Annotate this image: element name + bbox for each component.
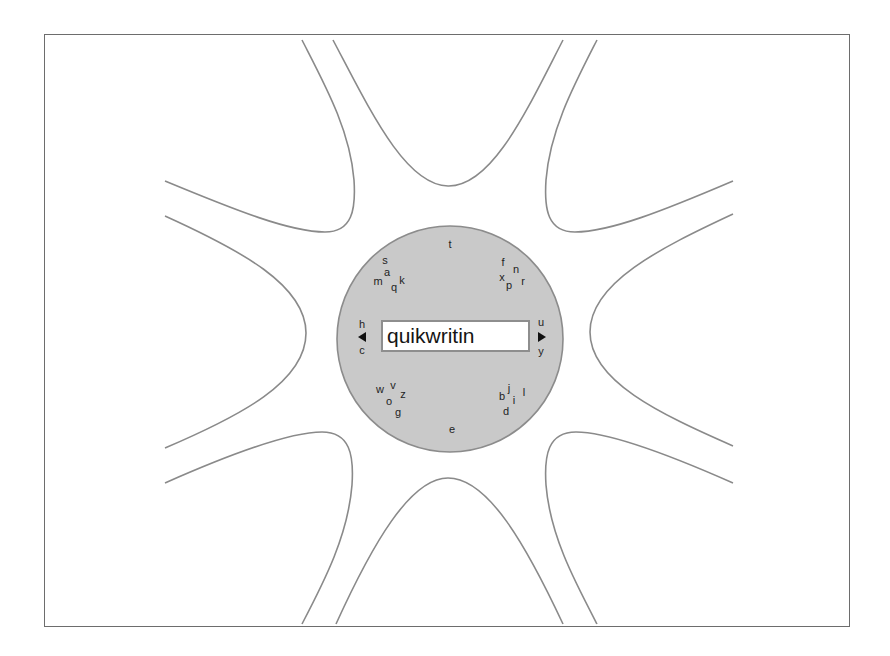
zone-letter-h: h [359,319,365,330]
zone-letter-e: e [449,424,455,435]
zone-letter-v: v [390,380,396,391]
zone-letter-z: z [400,389,406,400]
zone-letter-k: k [399,275,405,286]
zone-letter-a: a [384,267,390,278]
zone-letter-y: y [538,346,544,357]
zone-letter-p: p [506,280,512,291]
zone-letter-l: l [523,387,525,398]
zone-letter-q: q [391,282,397,293]
zone-letter-d: d [503,406,509,417]
zone-letter-b: b [499,391,505,402]
caret-right-icon[interactable] [538,332,546,342]
zone-boundary-bottom [336,478,563,624]
text-output-field[interactable]: quikwritin [381,320,530,352]
zone-letter-u: u [538,317,544,328]
zone-boundary-top-left [165,40,354,232]
zone-letter-r: r [521,276,525,287]
zone-boundary-top-right [546,40,733,232]
zone-letter-m: m [373,276,382,287]
zone-letter-c: c [359,345,365,356]
caret-left-icon[interactable] [358,332,366,342]
zone-boundary-bottom-right [546,432,733,624]
zone-letter-w: w [376,384,384,395]
zone-boundary-top [333,40,563,186]
zone-boundary-right [590,214,733,446]
zone-letter-i: i [513,395,515,406]
zone-letter-j: j [508,383,510,394]
zone-letter-f: f [501,257,504,268]
zone-letter-g: g [395,407,401,418]
zone-boundary-left [165,216,306,448]
zone-boundary-bottom-left [165,432,352,624]
zone-letter-t: t [448,239,451,250]
zone-letter-s: s [382,255,388,266]
zone-letter-o: o [386,396,392,407]
zone-letter-x: x [499,272,505,283]
zone-letter-n: n [513,264,519,275]
